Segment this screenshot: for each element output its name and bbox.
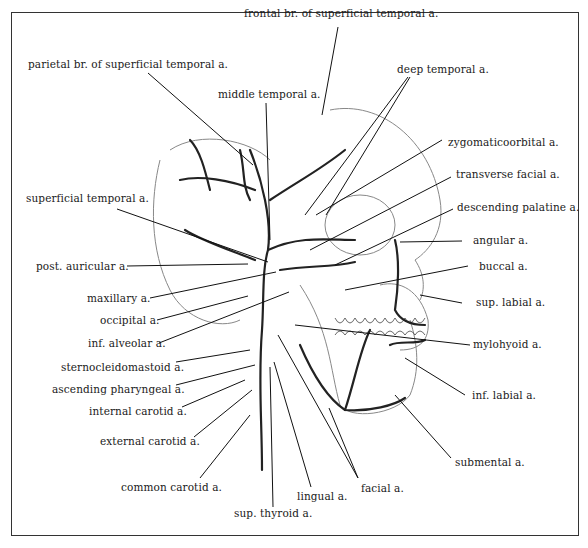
label-maxillary: maxillary a. (87, 292, 151, 304)
label-sup-thyroid: sup. thyroid a. (234, 507, 312, 519)
label-middle-temporal: middle temporal a. (218, 88, 320, 100)
label-external-carotid: external carotid a. (100, 435, 200, 447)
label-post-auricular: post. auricular a. (36, 260, 129, 272)
maxilla-outline (380, 284, 428, 350)
carotid-temporal-trunk (250, 150, 269, 470)
label-inf-alveolar: inf. alveolar a. (88, 337, 166, 349)
label-zygomaticoorbital: zygomaticoorbital a. (448, 136, 559, 148)
label-parietal-branch: parietal br. of superficial temporal a. (28, 58, 228, 70)
label-deep-temporal: deep temporal a. (397, 63, 489, 75)
label-sternocleidomastoid: sternocleidomastoid a. (61, 361, 184, 373)
label-superficial-temporal: superficial temporal a. (26, 192, 149, 204)
label-submental: submental a. (455, 456, 525, 468)
occipital-outline (153, 160, 240, 324)
vessels (180, 140, 425, 470)
label-occipital: occipital a. (100, 314, 160, 326)
label-lingual: lingual a. (297, 490, 348, 502)
label-sup-labial: sup. labial a. (476, 296, 545, 308)
label-transverse-facial: transverse facial a. (456, 168, 560, 180)
label-facial: facial a. (361, 482, 404, 494)
label-inf-labial: inf. labial a. (472, 389, 536, 401)
label-ascending-pharyngeal: ascending pharyngeal a. (52, 383, 185, 395)
label-common-carotid: common carotid a. (121, 481, 222, 493)
label-angular: angular a. (473, 234, 528, 246)
label-internal-carotid: internal carotid a. (89, 405, 187, 417)
label-frontal-branch: frontal br. of superficial temporal a. (244, 7, 438, 19)
label-descending-palatine: descending palatine a. (457, 201, 579, 213)
label-mylohyoid: mylohyoid a. (473, 338, 542, 350)
orbit-outline (325, 195, 395, 255)
mandible-outline (300, 285, 417, 414)
label-buccal: buccal a. (479, 260, 528, 272)
skull-outline (330, 108, 441, 260)
